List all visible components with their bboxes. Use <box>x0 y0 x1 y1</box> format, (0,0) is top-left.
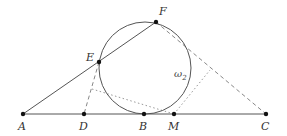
dotted-line-0 <box>92 89 174 114</box>
label-C: C <box>261 120 270 133</box>
label-E: E <box>85 51 94 64</box>
point-D <box>82 112 86 116</box>
label-omega-2: ω2 <box>174 68 187 82</box>
lines-layer <box>23 22 266 114</box>
label-A: A <box>17 120 26 133</box>
segment-AF <box>23 22 156 114</box>
segment-FC <box>156 22 266 114</box>
label-B: B <box>138 120 147 133</box>
point-M <box>172 112 176 116</box>
point-C <box>264 112 268 116</box>
label-F: F <box>158 5 167 18</box>
points-layer <box>21 20 268 116</box>
point-B <box>142 112 146 116</box>
point-E <box>97 60 101 64</box>
label-D: D <box>78 120 88 133</box>
geometry-diagram: ADBMCEFω2 <box>0 0 287 136</box>
point-A <box>21 112 25 116</box>
point-F <box>154 20 158 24</box>
label-M: M <box>167 120 180 133</box>
